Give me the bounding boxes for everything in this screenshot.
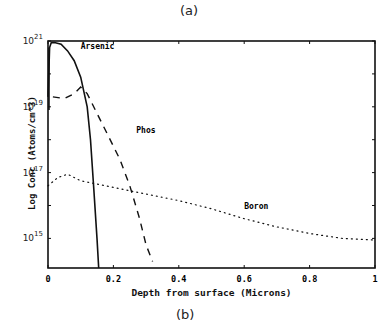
x-tick-label: 0 xyxy=(45,274,50,284)
y-axis-label: Log Conc (Atoms/cm^3) xyxy=(27,63,37,243)
annotation-phos: Phos xyxy=(136,126,155,135)
annotation-arsenic: Arsenic xyxy=(81,41,115,51)
series-arsenic xyxy=(48,43,99,268)
x-tick-label: 1 xyxy=(372,274,377,284)
x-tick-label: 0.8 xyxy=(302,274,317,284)
x-tick-label: 0.2 xyxy=(106,274,121,284)
x-tick-label: 0.4 xyxy=(171,274,186,284)
y-tick-label: 1021 xyxy=(23,33,43,46)
tick-labels: 00.20.40.60.811021101910171015ArsenicPho… xyxy=(23,33,378,284)
x-tick-label: 0.6 xyxy=(237,274,252,284)
doping-profile-chart: 00.20.40.60.811021101910171015ArsenicPho… xyxy=(0,0,386,329)
caption-b: (b) xyxy=(176,307,194,322)
series-phos xyxy=(53,87,153,261)
x-axis-label: Depth from surface (Microns) xyxy=(48,287,375,298)
data-series xyxy=(48,43,375,268)
annotation-boron: Boron xyxy=(244,202,268,211)
